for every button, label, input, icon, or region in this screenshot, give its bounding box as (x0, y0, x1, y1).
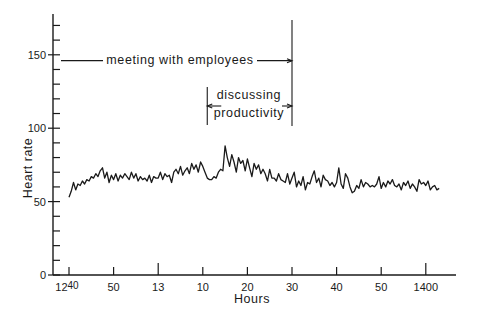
annotation-meeting-label: meeting with employees (106, 53, 253, 67)
x-axis: 1240501310203040501400 (53, 263, 456, 293)
y-tick-label: 100 (28, 122, 46, 134)
annotation-discussing-label: discussing (217, 88, 281, 102)
series-layer (69, 146, 439, 197)
y-tick-label: 150 (28, 49, 46, 61)
x-tick-label: 50 (375, 281, 387, 293)
heart-rate-chart: 050100150 1240501310203040501400 Heart r… (0, 0, 478, 321)
x-tick-label: 10 (197, 281, 209, 293)
x-tick-label: 40 (330, 281, 342, 293)
y-axis-label: Heart rate (21, 138, 35, 199)
annotation-productivity-label: productivity (214, 106, 285, 120)
x-tick-label: 1400 (414, 281, 438, 293)
y-tick-label: 0 (40, 269, 46, 281)
x-tick-label: 13 (152, 281, 164, 293)
heart-rate-line (69, 146, 439, 197)
x-tick-label: 30 (286, 281, 298, 293)
x-axis-label: Hours (234, 292, 270, 306)
x-tick-label: 1240 (55, 280, 79, 293)
y-tick-label: 50 (34, 196, 46, 208)
x-tick-label: 50 (107, 281, 119, 293)
